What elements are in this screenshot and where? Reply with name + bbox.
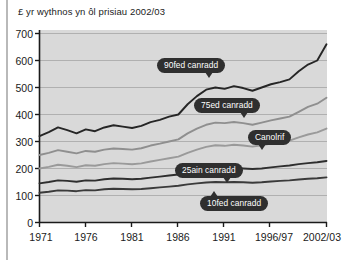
callout-p75: 75ed canradd: [194, 98, 260, 113]
y-tick-label: 100: [15, 190, 33, 202]
x-tick-label: 1986: [166, 231, 190, 243]
callout-tail-icon: [258, 144, 266, 150]
y-tick-label: 300: [15, 136, 33, 148]
callout-tail-icon: [240, 112, 248, 118]
y-tick-label: 500: [15, 82, 33, 94]
y-tick-label: 0: [27, 217, 33, 229]
callout-tail-icon: [205, 72, 213, 78]
x-tick-label: 1991: [212, 231, 236, 243]
callout-tail-icon: [210, 191, 218, 197]
callout-p25: 25ain canradd: [175, 163, 243, 178]
y-tick-label: 700: [15, 28, 33, 40]
callout-median-label: Canolrif: [255, 132, 284, 142]
x-tick-label: 1971: [29, 231, 53, 243]
chart-figure: £ yr wythnos yn ôl prisiau 2002/03: [0, 0, 348, 260]
y-tick-marks: [35, 34, 39, 223]
plot-area: 700 600 500 400 300 200 100 0 1971 1976 …: [0, 0, 348, 260]
callout-p10-label: 10fed canradd: [207, 198, 261, 208]
callout-p25-label: 25ain canradd: [182, 165, 236, 175]
callout-median: Canolrif: [248, 130, 291, 145]
callout-p75-label: 75ed canradd: [201, 100, 253, 110]
x-tick-labels: 1971 1976 1981 1986 1991 1996/97 2002/03: [29, 231, 341, 243]
y-tick-label: 200: [15, 163, 33, 175]
x-tick-label: 1981: [120, 231, 144, 243]
x-tick-label: 2002/03: [303, 231, 341, 243]
y-tick-labels: 700 600 500 400 300 200 100 0: [15, 28, 33, 229]
x-tick-label: 1976: [74, 231, 98, 243]
callout-tail-icon: [223, 177, 231, 183]
x-tick-label: 1996/97: [255, 231, 293, 243]
y-tick-label: 400: [15, 109, 33, 121]
callout-p90-label: 90fed canradd: [164, 60, 218, 70]
y-tick-label: 600: [15, 55, 33, 67]
callout-p10: 10fed canradd: [200, 196, 268, 211]
percentile-line-chart: 700 600 500 400 300 200 100 0 1971 1976 …: [0, 0, 348, 260]
callout-p90: 90fed canradd: [157, 58, 225, 73]
